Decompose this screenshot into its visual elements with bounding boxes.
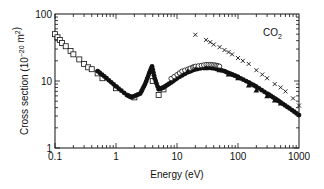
y-tick-label: 100: [35, 9, 52, 20]
y-axis-label: Cross section (10−20 m2): [11, 27, 30, 135]
x-tick-label: 1: [113, 151, 119, 162]
cross-section-chart: 0.11101001000110100 CO2 Energy (eV) Cros…: [0, 0, 324, 189]
x-tick-label: 100: [230, 151, 247, 162]
series-open-squares: [53, 32, 166, 100]
series-filled-circles: [95, 64, 301, 117]
series-crosses: [193, 33, 301, 108]
x-axis-label: Energy (eV): [150, 169, 203, 180]
y-tick-label: 10: [41, 76, 53, 87]
series-filled-triangles: [185, 65, 283, 105]
molecule-annotation: CO2: [263, 27, 282, 40]
data-series: [53, 32, 302, 118]
y-tick-label: 1: [46, 143, 52, 154]
x-tick-label: 10: [171, 151, 183, 162]
x-tick-label: 1000: [288, 151, 311, 162]
